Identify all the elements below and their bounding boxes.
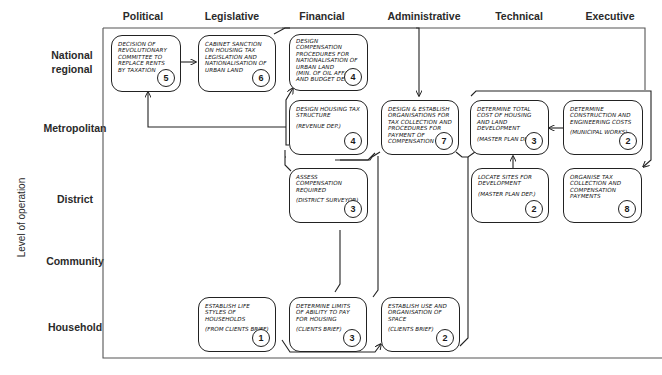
step-number-badge: 5	[157, 69, 175, 87]
step-number-badge: 8	[618, 200, 636, 218]
step-number-badge: 6	[252, 69, 270, 87]
step-number-badge: 4	[344, 68, 362, 86]
task-box-establish-use-of-space: Establish use and organisation of space …	[381, 297, 460, 352]
step-number-badge: 3	[344, 200, 362, 218]
task-box-locate-sites: Locate sites for development (Master Pla…	[471, 168, 549, 223]
task-box-cabinet-sanction: Cabinet sanction on housing tax legislat…	[198, 35, 276, 92]
step-number-badge: 1	[252, 329, 270, 347]
step-number-badge: 2	[436, 329, 454, 347]
task-box-design-housing-tax: Design housing tax structure (Revenue De…	[289, 100, 368, 155]
step-number-badge: 3	[525, 132, 543, 150]
task-box-revolutionary-committee: Decision of revolutionary committee to r…	[111, 35, 181, 92]
task-box-determine-ability-to-pay: Determine limits of ability to pay for h…	[289, 297, 367, 352]
task-box-determine-total-cost: Determine total cost of housing and land…	[470, 100, 549, 155]
task-box-construction-engineering-costs: Determine construction and engineering c…	[563, 100, 643, 155]
step-number-badge: 2	[619, 132, 637, 150]
step-number-badge: 4	[344, 132, 362, 150]
step-number-badge: 3	[343, 329, 361, 347]
step-number-badge: 7	[435, 132, 453, 150]
task-box-design-establish-organisations: Design & establish organisations for tax…	[381, 100, 459, 155]
task-box-establish-life-styles: Establish life styles of households (Fro…	[198, 297, 276, 352]
task-box-design-compensation-procedures: Design compensation procedures for natio…	[289, 34, 368, 91]
task-box-assess-compensation: Assess compensation required (District S…	[289, 168, 368, 223]
step-number-badge: 2	[525, 200, 543, 218]
task-box-organise-tax-collection: Organise tax collection and compensation…	[563, 168, 642, 223]
